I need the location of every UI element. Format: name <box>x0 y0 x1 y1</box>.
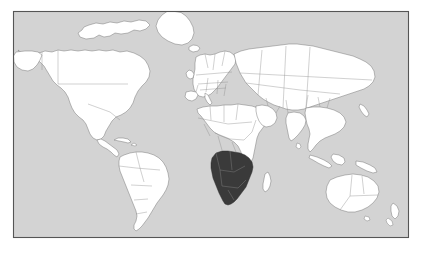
map-canvas <box>0 0 422 262</box>
world-locator-map <box>0 0 422 262</box>
